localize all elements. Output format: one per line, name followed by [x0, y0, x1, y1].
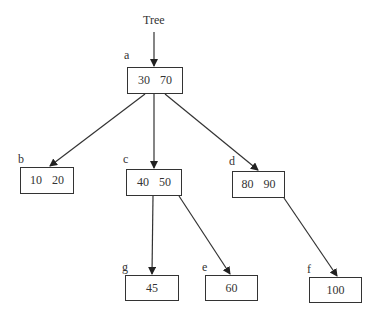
edge-a-d	[165, 94, 258, 170]
node-label-g: g	[122, 261, 128, 273]
node-b-key-1: 10	[30, 173, 42, 188]
node-g: 45	[125, 275, 179, 301]
node-e-key-1: 60	[226, 281, 238, 296]
node-c-key-1: 40	[137, 175, 149, 190]
node-d-key-1: 80	[242, 177, 254, 192]
edge-c-g	[152, 196, 153, 274]
node-b: 10 20	[20, 167, 74, 194]
node-a-key-2: 70	[160, 73, 172, 88]
node-label-c: c	[123, 153, 128, 165]
node-e: 60	[205, 275, 258, 301]
edges-layer	[0, 0, 377, 318]
node-g-key-1: 45	[146, 281, 158, 296]
node-a: 30 70	[127, 67, 183, 94]
node-d: 80 90	[232, 171, 285, 198]
tree-root-label: Tree	[143, 14, 165, 26]
node-label-e: e	[202, 261, 207, 273]
node-label-d: d	[229, 155, 235, 167]
node-c: 40 50	[126, 169, 182, 196]
edge-a-b	[50, 94, 145, 166]
node-c-key-2: 50	[159, 175, 171, 190]
node-b-key-2: 20	[52, 173, 64, 188]
node-f-key-1: 100	[327, 283, 345, 298]
node-f: 100	[309, 277, 362, 303]
node-a-key-1: 30	[138, 73, 150, 88]
node-label-f: f	[307, 263, 311, 275]
node-label-a: a	[124, 49, 129, 61]
node-d-key-2: 90	[264, 177, 276, 192]
node-label-b: b	[18, 153, 24, 165]
